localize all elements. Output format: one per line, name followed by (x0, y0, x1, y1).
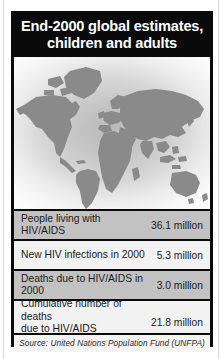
row-value: 5.3 million (151, 250, 203, 261)
source-text: Source: United Nations Population Fund (… (19, 339, 205, 348)
world-map-panel (14, 57, 210, 209)
row-value: 36.1 million (145, 220, 203, 231)
statistics-table: People living with HIV/AIDS 36.1 million… (14, 209, 210, 352)
infographic-card: End-2000 global estimates, children and … (11, 11, 213, 347)
table-row: People living with HIV/AIDS 36.1 million (14, 211, 210, 239)
page-margin-rule-left (3, 0, 4, 359)
world-map-silhouette-icon (14, 57, 210, 209)
table-row: Deaths due to HIV/AIDS in 2000 3.0 milli… (14, 271, 210, 299)
row-label: People living with HIV/AIDS (21, 213, 145, 238)
card-title: End-2000 global estimates, children and … (14, 14, 210, 57)
source-note: Source: United Nations Population Fund (… (14, 335, 210, 352)
row-label: Deaths due to HIV/AIDS in 2000 (21, 273, 151, 298)
row-label: Cumulative number of deaths due to HIV/A… (21, 298, 145, 336)
table-row: New HIV infections in 2000 5.3 million (14, 241, 210, 269)
card-title-line-2: children and adults (16, 35, 208, 52)
card-title-line-1: End-2000 global estimates, (21, 18, 203, 34)
table-row: Cumulative number of deaths due to HIV/A… (14, 301, 210, 333)
row-value: 3.0 million (151, 280, 203, 291)
row-value: 21.8 million (145, 317, 203, 333)
page-margin-rule-right (218, 0, 219, 359)
row-label: New HIV infections in 2000 (21, 249, 145, 262)
